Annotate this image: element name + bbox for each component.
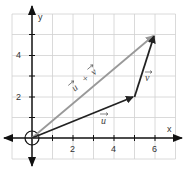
y-tick-4: 4 [16, 50, 21, 60]
y-axis-label: y [38, 12, 43, 22]
label-u-plus-v: u + v [67, 64, 100, 94]
x-tick-2: 2 [70, 144, 75, 154]
label-v: v [145, 71, 152, 84]
y-tick-2: 2 [16, 92, 21, 102]
label-u: u [100, 113, 108, 127]
vector-diagram: 2 4 6 2 4 x y u v u + v [0, 0, 188, 170]
svg-text:u: u [101, 115, 106, 126]
x-tick-6: 6 [152, 144, 157, 154]
x-tick-4: 4 [111, 144, 116, 154]
x-axis-label: x [167, 124, 172, 134]
svg-text:+: + [79, 72, 91, 85]
svg-text:v: v [145, 72, 150, 83]
vector-v [135, 36, 155, 97]
